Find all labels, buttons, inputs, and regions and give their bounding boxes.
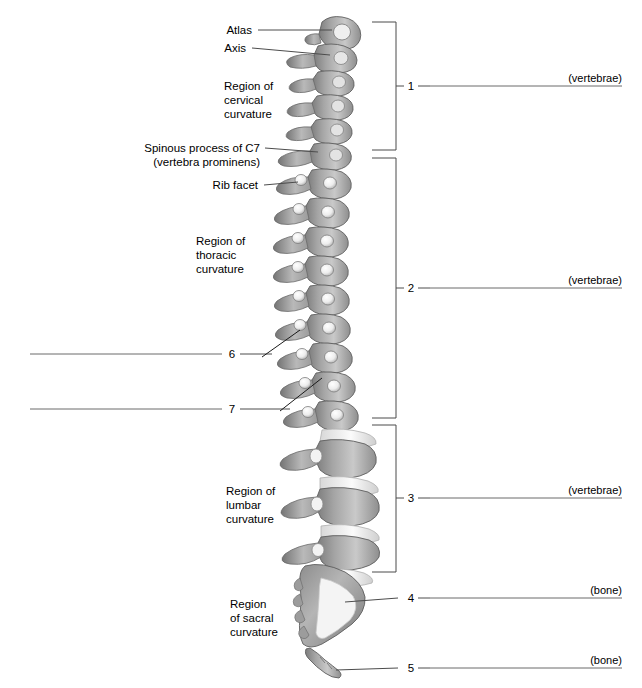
hint-5: (bone)	[522, 654, 622, 666]
lumbar-vertebrae-group	[280, 429, 380, 587]
label-vertebra-prominens: (vertebra prominens)	[108, 155, 260, 169]
label-rib-facet: Rib facet	[160, 178, 258, 192]
label-spinous-process-c7: Spinous process of C7	[108, 141, 260, 155]
leader-spinous-c7	[265, 148, 318, 152]
figure-canvas: Atlas Axis Spinous process of C7 (verteb…	[0, 0, 642, 688]
label-atlas: Atlas	[160, 23, 252, 37]
bracket-2	[372, 158, 396, 418]
callout-number-7: 7	[225, 403, 239, 415]
hint-4: (bone)	[522, 584, 622, 596]
callout-number-5: 5	[404, 662, 418, 674]
sacrum-coccyx-group	[293, 564, 365, 678]
leader-5-pointer	[336, 668, 398, 670]
bracket-1	[372, 22, 396, 150]
callout-number-6: 6	[225, 348, 239, 360]
hint-1: (vertebrae)	[522, 72, 622, 84]
callout-number-4: 4	[404, 592, 418, 604]
callout-number-1: 1	[404, 80, 418, 92]
callout-number-2: 2	[404, 282, 418, 294]
c7-vertebra-prominens	[278, 143, 351, 170]
cervical-vertebrae-group	[278, 17, 361, 171]
hint-2: (vertebrae)	[522, 274, 622, 286]
thoracic-vertebrae-group	[273, 169, 358, 431]
callout-number-3: 3	[404, 492, 418, 504]
label-axis: Axis	[160, 41, 246, 55]
hint-3: (vertebrae)	[522, 484, 622, 496]
